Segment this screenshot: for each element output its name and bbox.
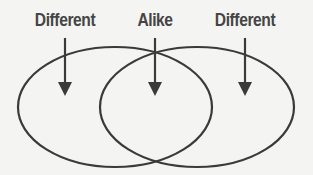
left-ellipse — [18, 47, 212, 167]
label-alike: Alike — [130, 9, 179, 31]
label-different-left: Different — [28, 9, 102, 31]
venn-diagram: Different Alike Different — [0, 0, 313, 175]
right-ellipse — [100, 47, 294, 167]
arrow-right-icon — [238, 38, 252, 96]
arrow-left-icon — [58, 38, 72, 96]
label-different-right: Different — [208, 9, 282, 31]
arrow-middle-icon — [148, 38, 162, 96]
